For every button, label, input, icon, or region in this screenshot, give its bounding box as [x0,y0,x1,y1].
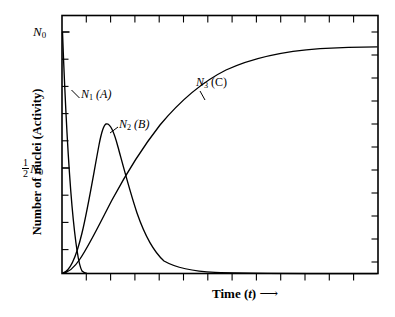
curve-label-n3-paren: (C) [211,75,227,89]
leader-line-n1 [72,90,80,98]
curve-label-n3: N3 (C) [196,76,227,90]
right-axis-ticks [372,32,379,262]
decay-chain-figure: N0 12N0 Number of nuclei (Activity) Time… [0,0,395,317]
y-axis-title: Number of nuclei (Activity) [30,77,44,247]
curve-n2 [63,124,378,274]
y-tick-label-n0-symbol: N [33,24,42,39]
x-axis-title: Time (t) ⟶ [212,287,277,300]
y-tick-label-n0-subscript: 0 [42,30,46,40]
curve-label-n2-symbol: N [119,117,127,131]
curve-n1 [63,32,88,273]
x-axis-title-text: Time ( [212,286,248,301]
curve-label-n1: N1 (A) [81,88,111,102]
curve-label-n1-subscript: 1 [89,93,93,102]
fraction-one-half: 12 [22,158,29,179]
bottom-axis-ticks [86,274,353,281]
leader-line-n3 [200,91,205,100]
curve-label-n2: N2 (B) [119,118,149,132]
x-axis-arrow-icon: ⟶ [259,286,277,301]
plot-canvas [0,0,395,317]
y-tick-label-n0: N0 [33,25,46,40]
curve-label-n3-subscript: 3 [204,81,208,90]
x-axis-title-close: ) [252,286,256,301]
curve-label-n2-paren: (B) [134,117,149,131]
top-axis-ticks [86,16,353,23]
curve-label-n2-subscript: 2 [127,123,131,132]
plot-frame [62,16,378,274]
curve-label-n1-paren: (A) [96,87,111,101]
fraction-denominator: 2 [22,168,29,179]
curve-label-n3-symbol: N [196,75,204,89]
curve-label-n1-symbol: N [81,87,89,101]
fraction-numerator: 1 [22,158,29,168]
